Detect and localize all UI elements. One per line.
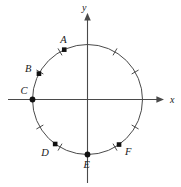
tick-mark: [132, 125, 139, 129]
point-marker: [62, 47, 67, 52]
plotted-points-group: [30, 47, 122, 157]
point-marker: [85, 152, 91, 158]
tick-mark: [113, 144, 117, 151]
y-axis-label: y: [82, 3, 86, 13]
point-marker: [30, 97, 36, 103]
unit-circle-figure: x y ABCDEF: [0, 0, 181, 187]
tick-mark: [132, 70, 139, 74]
point-label-d: D: [41, 148, 49, 159]
tick-mark: [58, 144, 62, 151]
tick-mark: [36, 125, 43, 129]
tick-mark: [113, 48, 117, 55]
point-label-b: B: [25, 64, 31, 75]
point-label-a: A: [60, 35, 66, 46]
point-label-c: C: [21, 86, 28, 97]
point-marker: [53, 142, 58, 147]
point-label-e: E: [84, 160, 90, 171]
point-marker: [37, 71, 42, 76]
point-label-f: F: [125, 147, 131, 158]
x-axis-label: x: [170, 95, 174, 105]
point-marker: [117, 142, 122, 147]
tick-mark: [58, 48, 62, 55]
